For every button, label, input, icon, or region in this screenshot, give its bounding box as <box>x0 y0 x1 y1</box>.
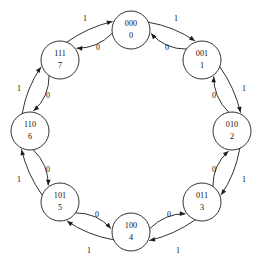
arrow-head <box>211 77 216 82</box>
state-decimal-label: 6 <box>28 132 32 141</box>
transition-input-label-000-001: 1 <box>174 14 178 23</box>
arrow-head <box>77 46 82 51</box>
state-binary-label: 101 <box>54 191 66 200</box>
state-node-circle <box>41 41 79 79</box>
state-binary-label: 110 <box>24 120 36 129</box>
arrow-head <box>21 150 25 156</box>
state-node-circle <box>41 183 79 221</box>
state-node-010[interactable]: 0102 <box>213 112 251 150</box>
state-node-circle <box>183 183 221 221</box>
transition-input-label-011-010: 0 <box>212 165 216 174</box>
arrow-head <box>150 237 156 241</box>
arrow-head <box>46 180 51 185</box>
transition-input-label-010-001: 0 <box>212 91 216 100</box>
state-node-100[interactable]: 1004 <box>112 213 150 251</box>
state-decimal-label: 2 <box>230 132 234 141</box>
arrow-head <box>189 36 195 41</box>
transition-input-label-011-100: 1 <box>176 246 180 255</box>
transition-edge-101-to-100 <box>76 213 111 229</box>
transition-input-label-101-110: 1 <box>17 175 21 184</box>
state-node-circle <box>11 112 49 150</box>
state-node-011[interactable]: 0113 <box>183 183 221 221</box>
transition-input-label-010-011: 1 <box>242 175 246 184</box>
transition-input-label-110-111: 1 <box>17 84 21 93</box>
state-binary-label: 100 <box>125 221 137 230</box>
state-decimal-label: 0 <box>129 31 133 40</box>
arrow-head <box>107 21 113 25</box>
state-diagram-canvas: 00000011010201131004101511061117 1111111… <box>0 0 264 272</box>
transition-input-label-100-101: 1 <box>87 246 91 255</box>
transition-input-label-101-100: 0 <box>95 210 99 219</box>
arrow-head <box>237 107 241 113</box>
state-decimal-label: 3 <box>200 203 204 212</box>
state-decimal-label: 4 <box>129 233 133 242</box>
transition-edge-000-to-111 <box>77 33 113 48</box>
arrow-head <box>67 221 73 226</box>
state-nodes: 00000011010201131004101511061117 <box>11 11 251 251</box>
transition-input-label-001-010: 1 <box>242 84 246 93</box>
arrow-head <box>180 211 185 216</box>
arrow-head <box>36 67 41 73</box>
state-node-001[interactable]: 0011 <box>183 41 221 79</box>
state-node-110[interactable]: 1106 <box>11 112 49 150</box>
state-node-101[interactable]: 1015 <box>41 183 79 221</box>
state-binary-label: 111 <box>54 49 66 58</box>
state-node-circle <box>112 213 150 251</box>
state-node-circle <box>183 41 221 79</box>
arrow-head <box>221 189 226 195</box>
state-node-111[interactable]: 1117 <box>41 41 79 79</box>
state-decimal-label: 5 <box>58 203 62 212</box>
state-decimal-label: 1 <box>200 61 204 70</box>
state-node-circle <box>213 112 251 150</box>
state-binary-label: 011 <box>196 191 208 200</box>
transition-input-label-110-101: 0 <box>46 165 50 174</box>
state-transition-diagram: 00000011010201131004101511061117 1111111… <box>0 0 264 272</box>
state-binary-label: 000 <box>125 19 137 28</box>
state-decimal-label: 7 <box>58 61 62 70</box>
transition-input-label-001-000: 0 <box>165 43 169 52</box>
state-binary-label: 001 <box>196 49 208 58</box>
transition-input-label-100-011: 0 <box>167 210 171 219</box>
transition-input-label-111-000: 1 <box>83 14 87 23</box>
transition-input-label-111-110: 0 <box>46 91 50 100</box>
state-binary-label: 010 <box>226 120 238 129</box>
state-node-circle <box>112 11 150 49</box>
transition-input-label-000-111: 0 <box>96 43 100 52</box>
state-node-000[interactable]: 0000 <box>112 11 150 49</box>
